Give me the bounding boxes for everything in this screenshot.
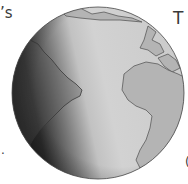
globe-illustration — [0, 0, 188, 184]
